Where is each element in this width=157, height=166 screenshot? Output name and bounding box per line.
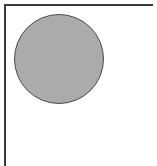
frame-top-rule: [4, 4, 153, 6]
figure-canvas: [0, 0, 157, 166]
frame-left-rule: [4, 4, 6, 166]
gray-circle-shape: [14, 14, 104, 104]
